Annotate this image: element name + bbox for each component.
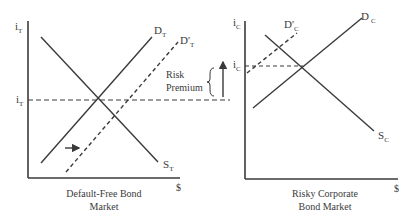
supply-label-st: ST [163,158,174,173]
equilibrium-rate-label-it: iT [16,93,24,108]
right-x-axis-label: $ [394,183,399,194]
left-caption-line2: Market [90,201,119,212]
supply-curve-sc [265,35,374,131]
shifted-demand-label-dc-prime: D'C [284,18,299,33]
left-caption-line1: Default-Free Bond [66,188,141,199]
risky-corporate-bond-market-panel: iC iC DC D'C SC $ Risky Corporate Bond M… [233,10,399,212]
risk-premium-label-line1: Risk [166,69,184,80]
equilibrium-rate-label-ic: iC [233,58,241,73]
risk-premium-brace-icon [207,68,214,96]
shifted-demand-label-dt-prime: D'T [180,34,195,49]
right-caption-line1: Risky Corporate [292,188,358,199]
left-x-axis-label: $ [176,182,181,193]
risk-premium-label-line2: Premium [166,82,203,93]
right-y-axis-label: iC [233,16,241,31]
right-caption-line2: Bond Market [298,201,351,212]
supply-label-sc: SC [378,129,389,144]
demand-label-dt: DT [154,24,167,39]
shifted-demand-curve-dt-prime [66,42,178,172]
shifted-demand-curve-dc-prime [247,33,297,73]
default-free-bond-market-panel: iT iT DT D'T ST Risk Premium $ Default-F… [15,20,230,212]
demand-label-dc: DC [361,10,376,25]
risk-premium-diagram: iT iT DT D'T ST Risk Premium $ Default-F… [0,0,420,223]
left-y-axis-label: iT [15,20,23,35]
demand-curve-dc [253,18,362,108]
